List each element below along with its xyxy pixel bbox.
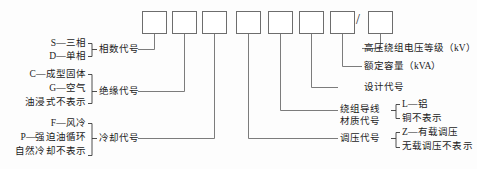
leader-insulation — [138, 34, 185, 92]
group-title-voltage-regulation: 调压代号 — [340, 133, 380, 144]
group-title-winding-material-line2: 材质代号 — [340, 116, 380, 127]
leader-voltage-regulation — [249, 34, 339, 139]
group-title-rated-capacity: 额定容量（kVA） — [364, 61, 441, 72]
leader-rated-capacity — [343, 34, 363, 67]
rated-capacity-box — [331, 12, 355, 34]
brace-cooling — [88, 124, 97, 156]
leader-winding-material — [281, 34, 339, 111]
option-cooling-forced-oil: P—强迫油循环 — [0, 132, 86, 143]
option-cooling-natural: 自然冷却不表示 — [0, 146, 86, 157]
winding-conductor-material-code-box — [269, 12, 293, 34]
brace-voltage-regulation — [391, 133, 400, 148]
design-code-box — [300, 12, 324, 34]
option-on-load-tap-changing: Z—有载调压 — [402, 127, 458, 138]
group-title-winding-material-line1: 绕组导线 — [340, 104, 380, 115]
transformer-code-diagram: / S—三相 D—单相 相数代号 C—成型固体 G—空气 油浸式不表示 绝缘代号… — [0, 0, 477, 169]
voltage-regulation-code-box — [237, 12, 261, 34]
group-title-phase: 相数代号 — [99, 44, 139, 55]
slash-separator: / — [356, 12, 360, 28]
option-winding-copper: 铜不表示 — [402, 113, 442, 124]
insulation-code-box — [173, 12, 197, 34]
option-insulation-oil-immersed: 油浸式不表示 — [0, 97, 86, 108]
option-phase-three: S—三相 — [0, 38, 86, 49]
brace-winding-material — [391, 105, 400, 119]
cooling-code-box — [203, 12, 227, 34]
option-winding-aluminum: L—铝 — [402, 99, 428, 110]
option-phase-single: D—单相 — [0, 51, 86, 62]
group-title-hv-voltage-class: 高压绕组电压等级（kV） — [364, 43, 476, 54]
option-cooling-air-forced: F—风冷 — [0, 118, 86, 129]
option-off-load-tap-changing: 无载调压不表示 — [402, 141, 473, 152]
brace-insulation — [88, 75, 97, 104]
option-insulation-air: G—空气 — [0, 83, 86, 94]
group-title-cooling: 冷却代号 — [99, 133, 139, 144]
leader-design — [312, 34, 339, 88]
group-title-design-code: 设计代号 — [364, 82, 404, 93]
hv-winding-voltage-class-box — [369, 12, 393, 34]
option-insulation-molded-solid: C—成型固体 — [0, 69, 86, 80]
brace-phase — [88, 44, 97, 57]
group-title-insulation: 绝缘代号 — [99, 86, 139, 97]
leader-phase — [138, 34, 155, 50]
phase-code-box — [143, 12, 167, 34]
